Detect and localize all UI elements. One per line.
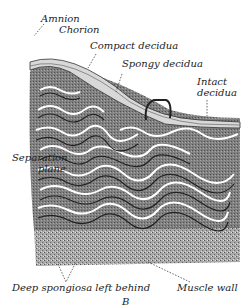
label-amnion: Amnion <box>41 13 80 24</box>
muscle-wall-region <box>34 226 240 266</box>
label-compact-decidua: Compact decidua <box>90 40 178 51</box>
label-separation-plane-line2: plane <box>12 163 68 174</box>
label-intact-decidua-line1: Intact <box>197 76 237 87</box>
label-muscle-wall: Muscle wall <box>177 282 238 293</box>
panel-letter: B <box>122 296 129 307</box>
label-separation-plane: Separation plane <box>12 152 68 174</box>
label-deep-spongiosa: Deep spongiosa left behind <box>12 282 150 293</box>
label-separation-plane-line1: Separation <box>12 152 68 163</box>
label-intact-decidua-line2: decidua <box>197 87 237 98</box>
label-intact-decidua: Intact decidua <box>197 76 237 98</box>
label-chorion: Chorion <box>59 24 100 35</box>
label-spongy-decidua: Spongy decidua <box>122 58 203 69</box>
